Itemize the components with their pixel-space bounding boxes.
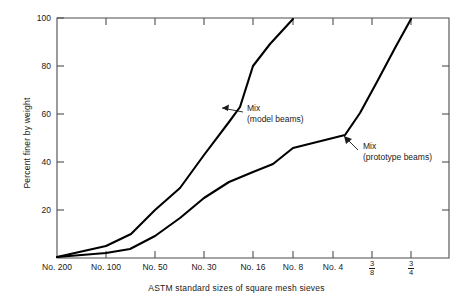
sieve-analysis-chart: 100 80 60 40 20 No. 200 No. 100 No. 50 N… xyxy=(0,0,473,302)
annotation-prototype-beams-line1: Mix xyxy=(363,141,432,152)
curve-prototype-beams xyxy=(57,19,411,257)
fraction-denominator: 4 xyxy=(408,268,414,277)
x-axis-title: ASTM standard sizes of square mesh sieve… xyxy=(0,283,473,293)
annotation-prototype-beams: Mix (prototype beams) xyxy=(363,141,432,163)
fraction-denominator: 8 xyxy=(369,268,375,277)
annotation-leader-prototype xyxy=(344,136,358,150)
annotation-prototype-beams-line2: (prototype beams) xyxy=(363,152,432,163)
fraction-numerator: 3 xyxy=(408,260,414,268)
axis-frame xyxy=(57,18,449,258)
annotation-model-beams-line2: (model beams) xyxy=(247,114,304,125)
y-axis-title: Percent finer by weight xyxy=(22,53,32,233)
x-axis-ticks-top xyxy=(106,18,411,25)
x-axis-ticks-bottom xyxy=(106,251,411,258)
y-tick-label-100: 100 xyxy=(21,13,51,23)
y-axis-ticks xyxy=(57,18,64,210)
annotation-model-beams: Mix (model beams) xyxy=(247,103,304,125)
y-axis-ticks-right xyxy=(442,66,449,210)
annotation-model-beams-line1: Mix xyxy=(247,103,304,114)
x-tick-label-three-quarters: 3 4 xyxy=(381,260,441,277)
fraction-numerator: 3 xyxy=(369,260,375,268)
